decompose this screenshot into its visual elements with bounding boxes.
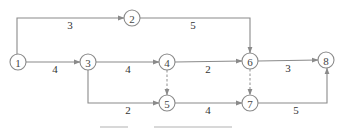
edge-label-1-2: 3 <box>67 19 73 31</box>
edge-4-6 <box>175 61 242 62</box>
network-diagram: 3 5 4 4 2 2 4 3 5 1 2 3 4 5 <box>0 0 345 128</box>
node-label-2: 2 <box>129 13 135 25</box>
edge-label-1-3: 4 <box>52 63 58 75</box>
node-6: 6 <box>242 53 258 69</box>
node-5: 5 <box>159 95 175 111</box>
node-label-6: 6 <box>247 56 253 68</box>
node-3: 3 <box>80 54 96 70</box>
edge-label-3-5: 2 <box>125 104 131 116</box>
figure-caption-clipped <box>0 121 345 128</box>
edge-3-5 <box>88 70 159 103</box>
node-2: 2 <box>124 10 140 26</box>
edge-label-5-7: 4 <box>205 104 211 116</box>
node-label-8: 8 <box>323 55 329 67</box>
edge-label-6-8: 3 <box>285 62 291 74</box>
node-4: 4 <box>159 54 175 70</box>
edge-label-2-6: 5 <box>190 19 196 31</box>
edge-label-7-8: 5 <box>293 104 299 116</box>
edge-6-8 <box>258 60 318 61</box>
node-8: 8 <box>318 52 334 68</box>
node-label-5: 5 <box>164 98 170 110</box>
node-label-1: 1 <box>15 57 21 69</box>
edge-label-3-4: 4 <box>125 63 131 75</box>
node-1: 1 <box>10 54 26 70</box>
node-label-4: 4 <box>164 57 170 69</box>
node-label-7: 7 <box>247 98 253 110</box>
edge-7-8 <box>258 68 327 103</box>
edge-label-4-6: 2 <box>205 63 211 75</box>
node-7: 7 <box>242 95 258 111</box>
node-label-3: 3 <box>85 57 91 69</box>
